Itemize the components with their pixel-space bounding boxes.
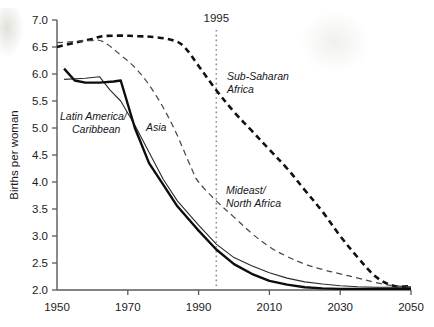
x-axis-tick-labels: 195019701990201020302050 bbox=[44, 301, 424, 313]
year-marker-label: 1995 bbox=[204, 12, 230, 24]
x-tick-label: 2010 bbox=[257, 301, 283, 313]
axis-lines bbox=[57, 20, 411, 290]
series-label-line: Africa bbox=[226, 83, 254, 95]
y-tick-label: 7.0 bbox=[32, 14, 48, 26]
y-tick-label: 3.0 bbox=[32, 230, 48, 242]
series-line-latin-america-caribbean bbox=[64, 69, 411, 289]
series-label-line: Latin America/ bbox=[60, 110, 128, 122]
series-label-line: Mideast/ bbox=[226, 184, 267, 196]
chart-container: 2.02.53.03.54.04.55.05.56.06.57.0 195019… bbox=[0, 0, 434, 327]
series-line-asia bbox=[64, 77, 411, 288]
series-label-line: Caribbean bbox=[72, 123, 121, 135]
y-tick-label: 2.0 bbox=[32, 284, 48, 296]
y-tick-label: 4.5 bbox=[32, 149, 48, 161]
series-label-sub-saharan-africa: Sub-SaharanAfrica bbox=[226, 70, 289, 95]
series-label-mideast-north-africa: Mideast/North Africa bbox=[226, 184, 281, 209]
line-chart-plot: 2.02.53.03.54.04.55.05.56.06.57.0 195019… bbox=[0, 0, 434, 327]
y-tick-label: 2.5 bbox=[32, 257, 48, 269]
y-tick-label: 5.5 bbox=[32, 95, 48, 107]
x-tick-label: 2030 bbox=[327, 301, 353, 313]
series-label-line: North Africa bbox=[226, 197, 281, 209]
y-axis-title: Births per woman bbox=[8, 110, 20, 199]
x-tick-label: 2050 bbox=[398, 301, 424, 313]
series-label-latin-america-caribbean: Latin America/Caribbean bbox=[60, 110, 128, 135]
x-tick-label: 1970 bbox=[115, 301, 141, 313]
series-label-asia: Asia bbox=[145, 121, 167, 133]
y-tick-label: 5.0 bbox=[32, 122, 48, 134]
x-tick-label: 1950 bbox=[44, 301, 70, 313]
y-axis-tick-labels: 2.02.53.03.54.04.55.05.56.06.57.0 bbox=[32, 14, 48, 296]
y-tick-label: 3.5 bbox=[32, 203, 48, 215]
y-tick-label: 4.0 bbox=[32, 176, 48, 188]
series-label-line: Sub-Saharan bbox=[227, 70, 289, 82]
series-label-line: Asia bbox=[145, 121, 167, 133]
y-axis-ticks bbox=[52, 20, 57, 290]
x-axis-ticks bbox=[128, 290, 411, 295]
y-tick-label: 6.5 bbox=[32, 41, 48, 53]
y-tick-label: 6.0 bbox=[32, 68, 48, 80]
series-annotation-labels: Sub-SaharanAfricaMideast/North AfricaAsi… bbox=[60, 70, 289, 209]
x-tick-label: 1990 bbox=[186, 301, 212, 313]
